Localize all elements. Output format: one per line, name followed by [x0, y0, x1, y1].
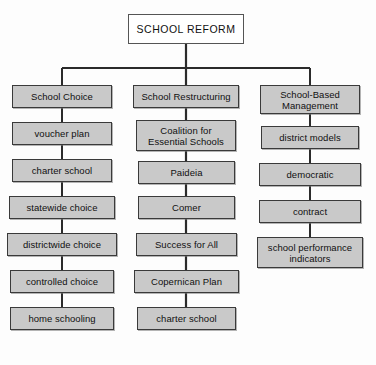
node-label: contract — [293, 206, 327, 217]
node-label: charter school — [32, 165, 92, 176]
node-statewide-choice[interactable]: statewide choice — [9, 196, 115, 219]
node-controlled-choice[interactable]: controlled choice — [10, 270, 114, 293]
node-label: home schooling — [28, 313, 95, 324]
node-charter-school-restructuring[interactable]: charter school — [137, 307, 236, 330]
node-contract[interactable]: contract — [259, 200, 361, 223]
node-voucher-plan[interactable]: voucher plan — [12, 122, 112, 145]
node-label: School Restructuring — [141, 91, 230, 102]
node-branch-school-based-management[interactable]: School-Based Management — [260, 85, 360, 114]
node-branch-school-choice[interactable]: School Choice — [12, 85, 112, 108]
node-root-school-reform[interactable]: SCHOOL REFORM — [128, 14, 244, 44]
node-school-performance-indicators[interactable]: school performance indicators — [257, 237, 363, 268]
node-label: statewide choice — [26, 202, 97, 213]
node-label: School-Based Management — [280, 89, 340, 111]
node-districtwide-choice[interactable]: districtwide choice — [7, 233, 117, 256]
node-label: Copernican Plan — [151, 276, 222, 287]
node-copernican-plan[interactable]: Copernican Plan — [134, 270, 239, 293]
node-label: Success for All — [155, 239, 218, 250]
node-label: Paideia — [170, 167, 202, 178]
node-label: district models — [279, 132, 340, 143]
node-label: Coalition for Essential Schools — [148, 125, 224, 147]
node-charter-school-choice[interactable]: charter school — [12, 159, 112, 182]
node-label: districtwide choice — [23, 239, 101, 250]
node-paideia[interactable]: Paideia — [138, 161, 235, 184]
node-democratic[interactable]: democratic — [259, 163, 361, 186]
node-label: SCHOOL REFORM — [137, 24, 236, 35]
node-label: Comer — [172, 202, 201, 213]
node-label: voucher plan — [35, 128, 90, 139]
node-label: charter school — [156, 313, 216, 324]
node-coalition-for-essential-schools[interactable]: Coalition for Essential Schools — [136, 120, 236, 151]
node-home-schooling[interactable]: home schooling — [10, 307, 114, 330]
node-success-for-all[interactable]: Success for All — [136, 233, 237, 256]
node-branch-school-restructuring[interactable]: School Restructuring — [133, 85, 239, 108]
node-district-models[interactable]: district models — [261, 126, 359, 149]
node-label: democratic — [287, 169, 334, 180]
node-label: controlled choice — [26, 276, 98, 287]
node-comer[interactable]: Comer — [138, 196, 235, 219]
node-label: school performance indicators — [268, 242, 352, 264]
node-label: School Choice — [31, 91, 93, 102]
organizational-chart: SCHOOL REFORM School Choice voucher plan… — [0, 0, 376, 365]
